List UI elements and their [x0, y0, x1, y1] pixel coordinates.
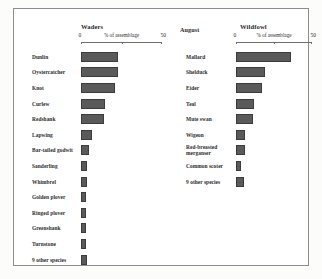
x-axis-tick-50-wildfowl [311, 42, 312, 45]
bar-track [81, 130, 162, 140]
bar-row-label: Mute swan [186, 116, 233, 122]
bar [81, 67, 118, 77]
bar-row-label: Ringed plover [32, 210, 78, 216]
bar [81, 52, 118, 62]
bar-row-label: Mallard [186, 54, 233, 60]
bar-row: Bar-tailed godwit [32, 143, 172, 159]
bar-row: Turnstone [32, 236, 172, 252]
bar [81, 223, 86, 233]
bar-row: Mallard [186, 49, 318, 65]
x-axis-caption-waders: % of assemblage [81, 32, 162, 38]
bar-row: Eider [186, 80, 318, 96]
bar-row: Golden plover [32, 189, 172, 205]
bar-row-label: Curlew [32, 101, 78, 107]
bar [236, 83, 262, 93]
bar [81, 255, 87, 265]
bar-row-label: Lapwing [32, 132, 78, 138]
x-axis-tick-0-waders [81, 42, 82, 45]
bar-row: Sanderling [32, 158, 172, 174]
bar-rows-wildfowl: MallardShelduckEiderTealMute swanWigeonR… [186, 49, 318, 189]
bar-row: Whimbrel [32, 174, 172, 190]
bar [236, 177, 244, 187]
x-axis-tick-25-waders [122, 42, 123, 45]
bar-track [81, 52, 162, 62]
bar-track [236, 114, 312, 124]
bar [236, 161, 241, 171]
bar-row: Ringed plover [32, 205, 172, 221]
bar-row: Shelduck [186, 65, 318, 81]
bar-track [236, 83, 312, 93]
bar [81, 177, 87, 187]
bar-track [236, 99, 312, 109]
bar-row-label: Sanderling [32, 163, 78, 169]
x-axis-tick-25-wildfowl [274, 42, 275, 45]
figure-frame: August Waders 0 % of assemblage 50 Dunli… [13, 8, 309, 266]
bar-row: Curlew [32, 96, 172, 112]
bar-row: Greenshank [32, 221, 172, 237]
bar [236, 99, 254, 109]
x-axis-wildfowl: 0 % of assemblage 50 [236, 32, 312, 48]
bar-row: Wigeon [186, 127, 318, 143]
bar [81, 130, 92, 140]
bar [81, 83, 115, 93]
bar-row-label: Knot [32, 85, 78, 91]
bar [81, 99, 105, 109]
bar [236, 52, 291, 62]
bar-row-label: Turnstone [32, 241, 78, 247]
bar-row: Red-breasted merganser [186, 143, 318, 159]
bar-track [81, 145, 162, 155]
bar-track [81, 255, 162, 265]
bar-track [81, 83, 162, 93]
period-label: August [180, 26, 200, 33]
bar-row-label: 9 other species [186, 179, 233, 185]
bar-row-label: Whimbrel [32, 179, 78, 185]
bar-row: 9 other species [186, 174, 318, 190]
bar-row-label: Redshank [32, 116, 78, 122]
bar-row: Teal [186, 96, 318, 112]
bar-row: 9 other species [32, 252, 172, 268]
bar [81, 145, 89, 155]
bar-row: Common scoter [186, 158, 318, 174]
bar-track [81, 223, 162, 233]
x-axis-tick-0-wildfowl [236, 42, 237, 45]
chart-title-wildfowl: Wildfowl [240, 23, 267, 30]
bar-row-label: 9 other species [32, 257, 78, 263]
bar-track [81, 114, 162, 124]
figure-container: August Waders 0 % of assemblage 50 Dunli… [0, 0, 322, 279]
bar-row-label: Wigeon [186, 132, 233, 138]
bar-track [236, 52, 312, 62]
bar-row-label: Dunlin [32, 54, 78, 60]
x-axis-tick-50-waders [161, 42, 162, 45]
bar-track [236, 161, 312, 171]
bar [236, 145, 245, 155]
bar-row-label: Greenshank [32, 225, 78, 231]
bar-row-label: Shelduck [186, 69, 233, 75]
bar-track [81, 99, 162, 109]
x-axis-max-label-wildfowl: 50 [311, 32, 316, 38]
bar-row-label: Oystercatcher [32, 69, 78, 75]
bar [81, 239, 86, 249]
bar-row-label: Eider [186, 85, 233, 91]
bar [236, 114, 253, 124]
bar-row: Lapwing [32, 127, 172, 143]
bar-row: Knot [32, 80, 172, 96]
bar-track [236, 130, 312, 140]
x-axis-caption-wildfowl: % of assemblage [236, 32, 312, 38]
bar-row-label: Golden plover [32, 194, 78, 200]
bar-row-label: Red-breasted merganser [186, 144, 233, 156]
bar-row-label: Bar-tailed godwit [32, 147, 78, 153]
chart-title-waders: Waders [81, 23, 103, 30]
bar-track [236, 145, 312, 155]
bar-track [81, 239, 162, 249]
x-axis-waders: 0 % of assemblage 50 [81, 32, 162, 48]
bar [81, 161, 87, 171]
bar-track [81, 208, 162, 218]
bar [81, 192, 86, 202]
bar-track [81, 192, 162, 202]
bar-row-label: Teal [186, 101, 233, 107]
bar-row: Redshank [32, 111, 172, 127]
bar [236, 130, 245, 140]
bar-row: Mute swan [186, 111, 318, 127]
bar [81, 114, 104, 124]
bar-track [81, 161, 162, 171]
